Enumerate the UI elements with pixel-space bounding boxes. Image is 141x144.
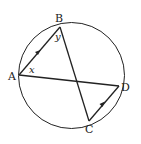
angle-y-label: y [54, 31, 61, 42]
label-b: B [55, 12, 63, 25]
angle-x-label: x [29, 64, 35, 75]
label-c: C [85, 123, 93, 136]
parallel-arrow-icon-ab [35, 50, 41, 55]
label-a: A [7, 70, 17, 83]
segment-bc [60, 27, 89, 121]
geometry-diagram: B A D C x y [0, 0, 141, 144]
segment-ad [19, 75, 119, 86]
label-d: D [121, 81, 130, 94]
circle [19, 23, 125, 129]
